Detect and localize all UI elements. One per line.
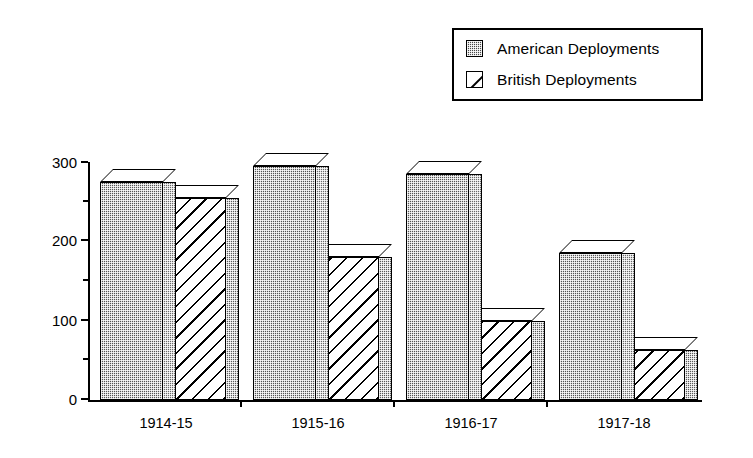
bar-side-face [316,166,329,400]
legend-swatch-british-icon [466,71,483,88]
plot-area: 0 100 200 300 1914-15 1915-16 1916-17 19… [88,160,702,403]
bar-american-1915-16 [253,166,316,400]
bar-american-1914-15 [100,182,163,400]
bar-side-face [379,257,392,400]
legend-entry-british: British Deployments [458,64,697,95]
bar-side-face [685,350,698,400]
y-tick-200 [81,239,88,241]
bar-front-face [559,253,622,400]
x-tick-label-1916-17: 1916-17 [444,416,497,431]
bar-american-1917-18 [559,253,622,400]
y-tick-label-300: 300 [52,155,77,170]
bar-american-1916-17 [406,174,469,400]
y-tick-300 [81,161,88,163]
y-tick-label-100: 100 [52,313,77,328]
bar-side-face [163,182,176,400]
x-tick-label-1917-18: 1917-18 [597,416,650,431]
x-tick-separator-1 [240,400,242,407]
y-tick-label-0: 0 [69,392,77,407]
chart-legend: American Deployments British Deployments [452,28,700,100]
x-tick-label-1914-15: 1914-15 [139,416,192,431]
x-axis-line [88,400,702,402]
y-tick-100 [81,319,88,321]
legend-box: American Deployments British Deployments [452,28,703,101]
y-axis-line [88,162,90,400]
bar-front-face [100,182,163,400]
bar-chart: American Deployments British Deployments… [0,0,753,458]
x-tick-separator-2 [393,400,395,407]
legend-swatch-american-icon [466,40,483,57]
x-tick-separator-3 [546,400,548,407]
legend-label-american: American Deployments [497,41,659,57]
bar-side-face [226,198,239,400]
x-tick-label-1915-16: 1915-16 [291,416,344,431]
y-tick-minor-50 [83,358,88,360]
bar-side-face [469,174,482,400]
y-tick-minor-150 [83,279,88,281]
legend-entry-american: American Deployments [458,33,697,64]
y-tick-0 [81,398,88,400]
y-tick-minor-250 [83,200,88,202]
bar-side-face [622,253,635,400]
legend-label-british: British Deployments [497,72,637,88]
bar-front-face [406,174,469,400]
y-tick-label-200: 200 [52,233,77,248]
bar-side-face [532,321,545,400]
bar-front-face [253,166,316,400]
